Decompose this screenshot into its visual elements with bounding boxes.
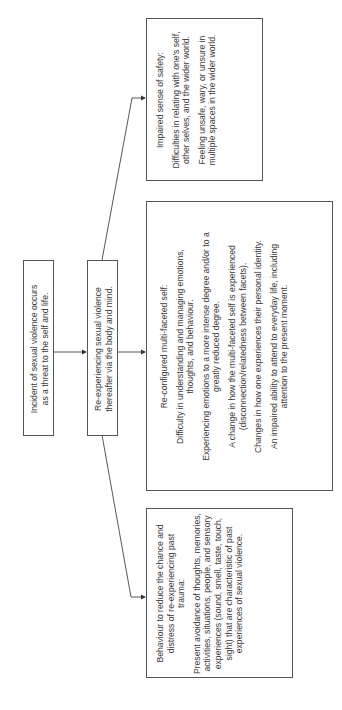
behaviour-node: Behaviour to reduce the chance and distr… bbox=[146, 508, 293, 678]
self-item-1: Difficulty in understanding and managing… bbox=[175, 210, 196, 483]
reexperiencing-line-1: Re-experiencing sexual violence bbox=[93, 263, 104, 435]
arrow-to-behaviour bbox=[102, 435, 145, 597]
safety-node: Impaired sense of safety: Difficulties i… bbox=[146, 18, 263, 181]
behaviour-item-1: Present avoidance of thoughts, memories,… bbox=[192, 513, 245, 674]
self-item-3: A change in how the multi-faceted self i… bbox=[227, 210, 248, 483]
incident-line-2: as a threat to the self and life. bbox=[40, 263, 51, 435]
self-item-4: Changes in how one experiences their per… bbox=[253, 210, 264, 483]
safety-item-1: Difficulties in relating with one's self… bbox=[171, 29, 192, 171]
behaviour-title: Behaviour to reduce the chance and distr… bbox=[155, 513, 187, 674]
incident-line-1: Incident of sexual violence occurs bbox=[29, 263, 40, 435]
self-item-2: Experiencing emotions to a more intense … bbox=[201, 210, 222, 483]
incident-node: Incident of sexual violence occurs as a … bbox=[23, 260, 54, 436]
self-node: Re-configured multi-faceted self: Diffic… bbox=[146, 201, 333, 491]
self-title: Re-configured multi-faceted self: bbox=[159, 210, 170, 483]
safety-title: Impaired sense of safety: bbox=[155, 29, 166, 171]
self-item-5: An impaired ability to attend to everyda… bbox=[269, 210, 290, 483]
arrow-to-safety bbox=[102, 98, 145, 260]
reexperiencing-line-2: thereafter via the body and mind. bbox=[104, 263, 115, 435]
safety-item-2: Feeling unsafe, wary, or unsure in multi… bbox=[197, 29, 218, 171]
reexperiencing-node: Re-experiencing sexual violence thereaft… bbox=[87, 260, 118, 436]
